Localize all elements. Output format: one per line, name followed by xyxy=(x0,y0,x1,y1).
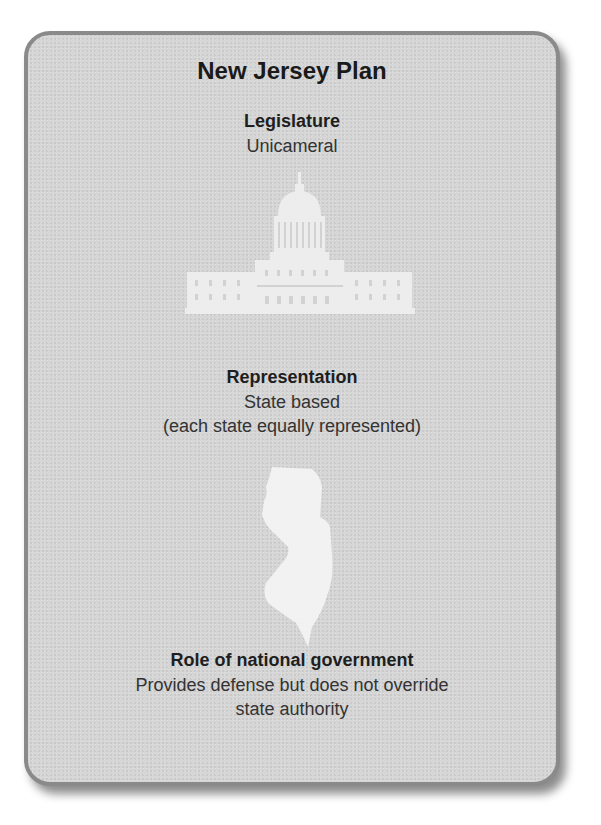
representation-value: State based (each state equally represen… xyxy=(28,390,556,438)
representation-heading: Representation xyxy=(28,367,556,388)
national-government-line-2: state authority xyxy=(28,697,556,721)
representation-line-2: (each state equally represented) xyxy=(28,414,556,438)
legislature-value: Unicameral xyxy=(28,134,556,158)
card-title: New Jersey Plan xyxy=(28,57,556,85)
new-jersey-plan-card: New Jersey Plan Legislature Unicameral xyxy=(24,31,560,786)
legislature-heading: Legislature xyxy=(28,111,556,132)
national-government-value: Provides defense but does not override s… xyxy=(28,673,556,721)
representation-line-1: State based xyxy=(28,390,556,414)
national-government-heading: Role of national government xyxy=(28,650,556,671)
new-jersey-map-icon xyxy=(262,465,338,647)
capitol-building-icon xyxy=(185,172,415,314)
national-government-line-1: Provides defense but does not override xyxy=(28,673,556,697)
